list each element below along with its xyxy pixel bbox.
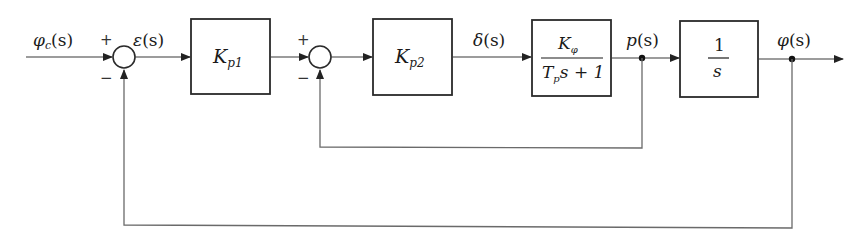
summing-junction-1 [113, 46, 135, 68]
sum1-minus-sign: − [100, 69, 113, 87]
sum2-plus-sign: + [297, 31, 310, 49]
block-integrator-denominator: s [713, 61, 722, 81]
block-diagram: φc(s) + − ε(s) Kp1 + − Kp2 δ(s) Kφ Tps +… [0, 0, 865, 244]
summing-junction-2 [309, 46, 331, 68]
output-label: φ(s) [777, 30, 811, 50]
sum1-plus-sign: + [100, 31, 113, 49]
p-label: p(s) [626, 30, 659, 50]
input-label: φc(s) [33, 30, 73, 52]
block-plant-denominator: Tps + 1 [542, 62, 604, 84]
block-integrator-numerator: 1 [714, 35, 725, 55]
sum2-minus-sign: − [297, 69, 310, 87]
block-integrator [680, 21, 758, 97]
error-label: ε(s) [133, 30, 164, 50]
delta-label: δ(s) [473, 30, 505, 50]
